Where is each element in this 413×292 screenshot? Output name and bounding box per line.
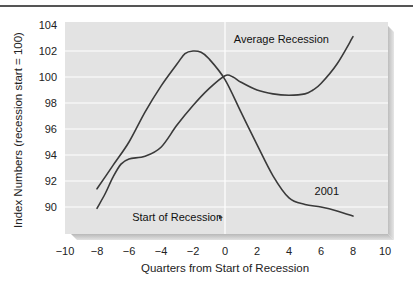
x-tick-label: 0	[222, 245, 228, 257]
y-axis-ticks: 9092949698100102104	[39, 19, 57, 213]
annotation-2001: 2001	[315, 185, 339, 197]
x-tick-label: −6	[123, 245, 136, 257]
annotation-start-of-recession: Start of Recession	[132, 211, 222, 223]
y-tick-label: 90	[45, 201, 57, 213]
x-tick-label: −8	[91, 245, 104, 257]
y-tick-label: 94	[45, 149, 57, 161]
x-tick-label: 8	[350, 245, 356, 257]
y-tick-label: 98	[45, 97, 57, 109]
x-tick-label: 4	[286, 245, 292, 257]
plot-background	[65, 22, 388, 234]
annotation-average-recession: Average Recession	[234, 33, 329, 45]
x-tick-label: −2	[187, 245, 200, 257]
x-tick-label: 6	[318, 245, 324, 257]
x-tick-label: −4	[155, 245, 168, 257]
y-tick-label: 102	[39, 45, 57, 57]
x-tick-label: −10	[56, 245, 75, 257]
y-tick-label: 104	[39, 19, 57, 31]
y-tick-label: 92	[45, 175, 57, 187]
x-tick-label: 10	[379, 245, 391, 257]
chart-figure: 9092949698100102104 −10−8−6−4−20246810 A…	[0, 0, 413, 292]
x-tick-label: 2	[254, 245, 260, 257]
y-axis-title: Index Numbers (recession start = 100)	[12, 32, 24, 228]
y-tick-label: 100	[39, 71, 57, 83]
y-tick-label: 96	[45, 123, 57, 135]
plot-shadow-right	[388, 26, 394, 240]
x-axis-ticks: −10−8−6−4−20246810	[56, 245, 391, 257]
plot-shadow-bottom	[71, 234, 394, 240]
x-axis-title: Quarters from Start of Recession	[141, 262, 309, 274]
line-chart: 9092949698100102104 −10−8−6−4−20246810 A…	[0, 0, 413, 292]
